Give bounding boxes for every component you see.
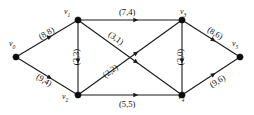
- edge-capacity-flow-label: (7,4): [119, 7, 135, 17]
- edge-direction-arrow: [133, 59, 138, 64]
- graph-edge: [182, 57, 240, 95]
- edge-capacity-flow-label: (5,5): [119, 99, 135, 109]
- edge-direction-arrow: [133, 93, 138, 98]
- node-label-v3: v3: [180, 7, 186, 18]
- edge-direction-arrow: [133, 52, 138, 57]
- node-label-subscript: 4: [182, 97, 185, 103]
- graph-node-v1: [75, 17, 81, 23]
- node-label-v4: v4: [178, 92, 184, 103]
- graph-node-v0: [13, 54, 19, 60]
- node-label-v0: v0: [9, 39, 15, 50]
- node-label-subscript: 5: [236, 44, 239, 50]
- graph-canvas: [0, 0, 254, 115]
- graph-node-v5: [237, 54, 243, 60]
- node-label-v1: v1: [64, 7, 70, 18]
- edge-capacity-flow-label: (3,3): [71, 49, 81, 65]
- node-label-v5: v5: [232, 39, 238, 50]
- edge-capacity-flow-label: (3,0): [175, 49, 185, 65]
- node-label-subscript: 2: [66, 97, 69, 103]
- flow-network-diagram: (8,8)(9,4)(3,3)(7,4)(3,1)(2,2)(5,5)(3,0)…: [0, 0, 254, 115]
- node-label-subscript: 0: [13, 44, 16, 50]
- graph-node-v3: [179, 17, 185, 23]
- node-label-v2: v2: [62, 92, 68, 103]
- graph-node-v2: [75, 92, 81, 98]
- node-label-subscript: 1: [68, 12, 71, 18]
- edge-direction-arrow: [133, 18, 138, 23]
- node-label-subscript: 3: [184, 12, 187, 18]
